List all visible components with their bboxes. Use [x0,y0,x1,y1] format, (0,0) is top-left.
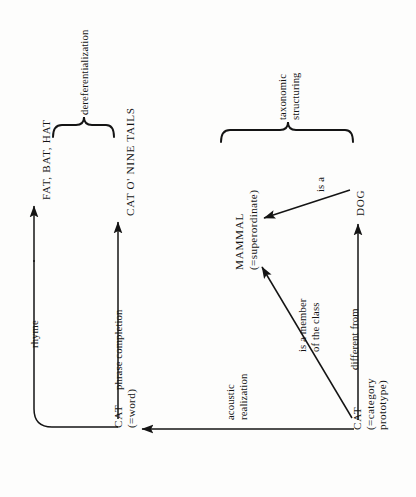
edge-label-phrase-completion: phrase completion [113,309,125,390]
brace-taxonomic-structuring [221,122,353,142]
edge-label-different-from: different from [349,308,361,370]
edge-label-is-a-member-line2: of the class [310,303,322,352]
node-rhyme-target: FAT, BAT, HAT [40,119,53,200]
node-cat-word-label: CAT [112,405,125,428]
edge-is-a-path [264,190,350,218]
brace-dereferentialization [53,117,114,137]
node-cat-word-sublabel: (=word) [125,389,138,428]
edge-label-is-a-member-line1: is a member [297,299,309,352]
edge-rhyme-path [34,260,118,427]
edge-label-acoustic-realization-line1: acoustic [225,384,237,420]
brace-label-taxonomic-structuring-line2: structuring [290,72,302,120]
node-mammal-label: MAMMAL [233,213,246,270]
node-cat-prototype-label: CAT [351,407,364,430]
node-cat-prototype-sublabel-line2: prototype) [376,380,389,430]
brace-label-taxonomic-structuring-line1: taxonomic [277,74,289,120]
node-cat-prototype-sublabel-line1: (=category [364,378,377,430]
node-phrase-target: CAT O' NINE TAILS [124,107,137,216]
diagram-canvas: dereferentialization taxonomic structuri… [0,0,416,497]
node-mammal-sublabel: (=superordinate) [247,190,260,270]
edge-label-acoustic-realization-line2: realization [238,374,250,420]
edge-label-rhyme: rhyme [29,320,41,348]
edge-label-is-a: is a [315,177,327,192]
node-dog-label: DOG [354,190,367,216]
brace-label-dereferentialization: dereferentialization [79,30,91,115]
